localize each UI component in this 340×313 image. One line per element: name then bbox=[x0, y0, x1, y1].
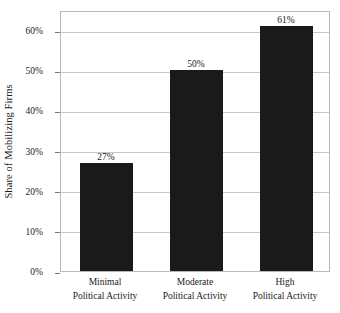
y-axis-tick-label: 20% bbox=[0, 186, 52, 198]
bar bbox=[260, 26, 313, 271]
y-axis-tick bbox=[55, 152, 60, 153]
x-axis-category-labels: MinimalPolitical ActivityModeratePolitic… bbox=[60, 276, 330, 310]
category-label-line2: Political Activity bbox=[150, 290, 240, 304]
bar-value-label: 27% bbox=[76, 151, 136, 163]
bars-layer: 27%50%61% bbox=[61, 12, 329, 271]
y-axis-tick bbox=[55, 192, 60, 193]
y-axis-tick-label: 0% bbox=[0, 266, 52, 278]
plot-area: 27%50%61% bbox=[60, 11, 330, 272]
category-label-line2: Political Activity bbox=[60, 290, 150, 304]
x-axis-category-label: HighPolitical Activity bbox=[240, 276, 330, 303]
y-axis-tick-label: 30% bbox=[0, 146, 52, 158]
category-label-line1: Minimal bbox=[60, 276, 150, 290]
y-axis-tick-label: 10% bbox=[0, 226, 52, 238]
bar bbox=[80, 163, 133, 271]
x-axis-category-label: MinimalPolitical Activity bbox=[60, 276, 150, 303]
y-axis-tick-label: 60% bbox=[0, 25, 52, 37]
category-label-line2: Political Activity bbox=[240, 290, 330, 304]
y-axis-tick bbox=[55, 112, 60, 113]
bar-chart: Share of Mobilizing Firms 0%10%20%30%40%… bbox=[0, 0, 340, 313]
bar-value-label: 61% bbox=[256, 14, 316, 26]
y-axis-tick-labels: 0%10%20%30%40%50%60% bbox=[0, 11, 52, 272]
y-axis-tick bbox=[55, 232, 60, 233]
y-axis-tick-label: 40% bbox=[0, 105, 52, 117]
category-label-line1: High bbox=[240, 276, 330, 290]
y-axis-tick bbox=[55, 273, 60, 274]
bar bbox=[170, 70, 223, 271]
x-axis-category-label: ModeratePolitical Activity bbox=[150, 276, 240, 303]
y-axis-tick bbox=[55, 72, 60, 73]
category-label-line1: Moderate bbox=[150, 276, 240, 290]
y-axis-tick bbox=[55, 32, 60, 33]
y-axis-tick-label: 50% bbox=[0, 65, 52, 77]
bar-value-label: 50% bbox=[166, 58, 226, 70]
